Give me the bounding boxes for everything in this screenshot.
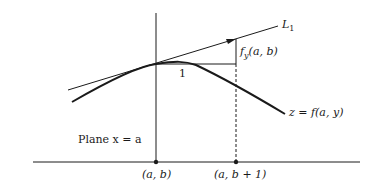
label-curve: z = f(a, y) <box>288 106 343 119</box>
label-point-a-b-plus-1: (a, b + 1) <box>214 168 266 181</box>
label-plane: Plane x = a <box>78 133 142 146</box>
arrow-head-icon <box>226 39 236 44</box>
label-l1: L1 <box>281 18 294 33</box>
label-slope: fy(a, b) <box>239 45 278 60</box>
point-a-b-plus-1 <box>234 160 238 164</box>
diagram-canvas: L1 fy(a, b) 1 z = f(a, y) Plane x = a (a… <box>0 0 372 189</box>
label-unit-run: 1 <box>179 67 186 80</box>
point-a-b <box>154 160 158 164</box>
label-point-a-b: (a, b) <box>142 168 171 181</box>
